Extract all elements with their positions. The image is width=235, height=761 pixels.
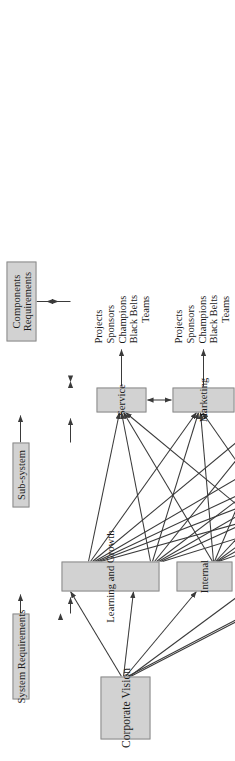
role-list-service: Projects Sponsors Champions Black Belts …	[92, 294, 151, 343]
node-sub-system[interactable]: Sub-system	[12, 442, 29, 507]
role-item: Teams	[139, 294, 151, 322]
node-system-requirements[interactable]: System Requirements	[12, 613, 29, 699]
role-item: Black Belts	[207, 294, 219, 343]
role-item: Projects	[92, 309, 104, 343]
node-function-marketing[interactable]: Marketing	[172, 387, 234, 412]
diagram-stage: Corporate Vision System Requirements Sub…	[0, 0, 235, 761]
node-perspective-internal[interactable]: Internal	[176, 561, 232, 591]
role-item: Champions	[116, 295, 128, 343]
role-item: Black Belts	[127, 294, 139, 343]
diagram-canvas: Corporate Vision System Requirements Sub…	[0, 0, 235, 761]
role-item: Champions	[196, 295, 208, 343]
node-corporate-vision[interactable]: Corporate Vision	[100, 676, 150, 739]
node-components-requirements[interactable]: Components Requirements	[6, 261, 36, 341]
role-list-marketing: Projects Sponsors Champions Black Belts …	[172, 294, 231, 343]
node-perspective-learning-and-growth[interactable]: Learning and Growth	[61, 561, 159, 591]
role-item: Sponsors	[184, 304, 196, 343]
role-item: Teams	[219, 294, 231, 322]
role-item: Projects	[172, 309, 184, 343]
node-function-service[interactable]: Service	[96, 387, 146, 412]
role-item: Sponsors	[104, 304, 116, 343]
